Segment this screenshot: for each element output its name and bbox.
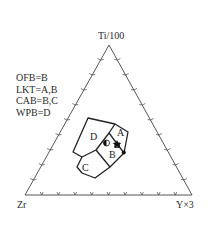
legend-item-lkt: LKT=A,B [16,84,58,96]
legend-item-wpb: WPB=D [16,107,58,119]
vertex-label-right: Y×3 [176,199,194,210]
field-label-d: D [90,131,97,142]
legend-item-cab: CAB=B,C [16,95,58,107]
right-edge-ticks [114,59,187,181]
field-labels: A B C D [82,127,125,173]
legend-item-ofb: OFB=B [16,72,58,84]
half-filled-circle-icon [104,140,110,146]
legend: OFB=B LKT=A,B CAB=B,C WPB=D [16,72,58,118]
field-label-a: A [117,127,125,138]
filled-circle-icon [122,151,126,155]
boundary-b-c [96,150,110,167]
vertex-label-top: Ti/100 [98,30,124,41]
ternary-triangle [25,45,192,195]
field-label-b: B [109,149,116,160]
vertex-label-left: Zr [17,199,26,210]
field-label-c: C [82,162,89,173]
